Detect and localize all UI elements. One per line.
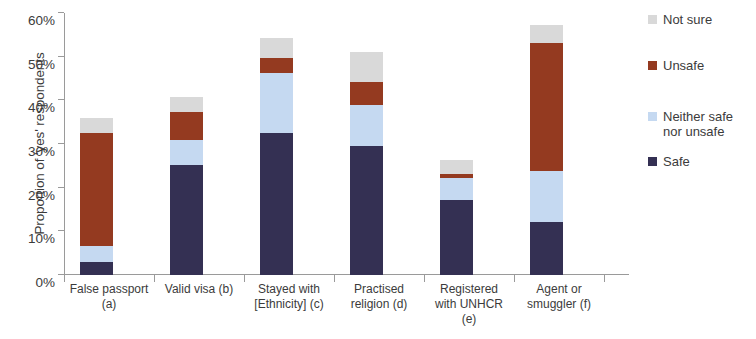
y-tick bbox=[58, 12, 64, 13]
bar-a[interactable] bbox=[80, 118, 113, 275]
legend-swatch-icon bbox=[648, 112, 657, 121]
y-tick bbox=[58, 56, 64, 57]
x-tick bbox=[154, 275, 155, 282]
bar-segment bbox=[440, 200, 473, 275]
bar-c[interactable] bbox=[260, 38, 293, 275]
bar-segment bbox=[170, 112, 203, 140]
y-tick bbox=[58, 187, 64, 188]
bar-segment bbox=[170, 140, 203, 165]
y-tick bbox=[58, 143, 64, 144]
legend-item[interactable]: Neither safe nor unsafe bbox=[648, 109, 733, 139]
bar-segment bbox=[260, 73, 293, 133]
x-tick bbox=[334, 275, 335, 282]
bar-b[interactable] bbox=[170, 97, 203, 275]
y-tick bbox=[58, 99, 64, 100]
bar-segment bbox=[80, 246, 113, 262]
y-tick bbox=[58, 230, 64, 231]
bar-segment bbox=[530, 43, 563, 171]
legend-item[interactable]: Safe bbox=[648, 154, 690, 169]
plot-area: 0%10%20%30%40%50%60% bbox=[64, 13, 629, 275]
bar-segment bbox=[350, 105, 383, 146]
x-tick bbox=[604, 275, 605, 282]
legend-swatch-icon bbox=[648, 61, 657, 70]
legend-label: Neither safe nor unsafe bbox=[663, 109, 733, 139]
legend-item[interactable]: Unsafe bbox=[648, 58, 704, 73]
legend-label: Safe bbox=[663, 154, 690, 169]
legend-label: Not sure bbox=[663, 12, 712, 27]
bar-segment bbox=[260, 133, 293, 275]
y-axis-line bbox=[64, 13, 65, 275]
bar-segment bbox=[530, 222, 563, 275]
bar-segment bbox=[350, 146, 383, 275]
bar-f[interactable] bbox=[530, 25, 563, 275]
x-tick bbox=[64, 275, 65, 282]
legend-swatch-icon bbox=[648, 157, 657, 166]
x-tick bbox=[514, 275, 515, 282]
bar-segment bbox=[530, 171, 563, 222]
bar-segment bbox=[260, 58, 293, 73]
bar-segment bbox=[440, 178, 473, 200]
bar-segment bbox=[350, 52, 383, 82]
legend-swatch-icon bbox=[648, 15, 657, 24]
bar-e[interactable] bbox=[440, 160, 473, 275]
legend-label: Unsafe bbox=[663, 58, 704, 73]
x-tick bbox=[424, 275, 425, 282]
bar-segment bbox=[440, 160, 473, 174]
bar-segment bbox=[170, 165, 203, 275]
x-axis-label: Agent or smuggler (f) bbox=[502, 282, 616, 312]
x-tick bbox=[244, 275, 245, 282]
bar-segment bbox=[530, 25, 563, 43]
legend-item[interactable]: Not sure bbox=[648, 12, 712, 27]
bar-segment bbox=[260, 38, 293, 58]
bar-d[interactable] bbox=[350, 52, 383, 275]
bar-segment bbox=[80, 262, 113, 275]
bar-segment bbox=[170, 97, 203, 111]
stacked-bar-chart: Proportion of 'yes' respondents 0%10%20%… bbox=[0, 0, 756, 339]
bar-segment bbox=[80, 118, 113, 133]
bar-segment bbox=[350, 82, 383, 105]
bar-segment bbox=[80, 133, 113, 246]
